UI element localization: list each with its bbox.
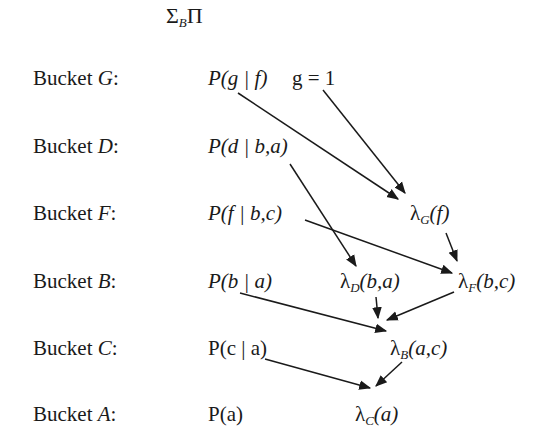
arrow-pca-to-lambda-c <box>265 359 370 388</box>
message-arrows <box>0 0 553 441</box>
arrow-lambda-d-to-lambda-b <box>376 297 378 318</box>
arrow-lambda-g-to-lambda-f <box>446 233 457 261</box>
arrow-g1-to-lambda-g <box>323 90 405 193</box>
arrow-pgf-to-lambda-g <box>238 93 398 199</box>
arrow-lambda-f-to-lambda-b <box>387 292 454 320</box>
arrow-lambda-b-to-lambda-c <box>376 362 402 386</box>
arrow-pdba-to-lambda-d <box>290 164 356 266</box>
arrow-pba-to-lambda-b <box>240 293 386 331</box>
arrow-pfbc-to-lambda-f <box>305 220 452 273</box>
